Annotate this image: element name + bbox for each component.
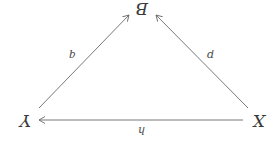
label-q: q [69, 50, 76, 61]
label-p: p [207, 50, 214, 61]
node-b: B [136, 0, 149, 17]
node-x: X [253, 112, 265, 129]
label-h: h [138, 125, 145, 136]
arrow-p [156, 15, 248, 108]
node-y: Y [20, 112, 31, 129]
diagram-canvas: X Y B h p q [0, 0, 279, 156]
arrow-q [39, 15, 129, 108]
